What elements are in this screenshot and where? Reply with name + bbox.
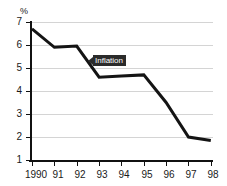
y-axis-unit-label: %	[20, 6, 28, 16]
inflation-annotation-callout: Inflation	[88, 55, 126, 66]
inflation-line-chart: % 7 6 5 4 3 2 1 1990 91 92 93 94 95 96 9…	[0, 0, 227, 186]
y-axis	[26, 21, 31, 161]
inflation-series-line	[32, 29, 211, 140]
x-tick-label-92: 92	[74, 169, 85, 180]
x-axis	[29, 161, 213, 167]
x-tick-label-96: 96	[163, 169, 174, 180]
x-tick-label-98: 98	[207, 169, 218, 180]
y-tick-label-4: 4	[8, 86, 22, 96]
x-tick-label-91: 91	[52, 169, 63, 180]
x-tick-label-94: 94	[118, 169, 129, 180]
inflation-annotation-label: Inflation	[93, 55, 126, 66]
y-tick-label-1: 1	[8, 155, 22, 165]
y-tick-label-6: 6	[8, 40, 22, 50]
x-tick-label-1990: 1990	[25, 169, 47, 180]
gridlines	[30, 22, 213, 137]
x-tick-label-97: 97	[185, 169, 196, 180]
y-tick-label-7: 7	[8, 17, 22, 27]
y-tick-label-2: 2	[8, 132, 22, 142]
y-tick-label-3: 3	[8, 109, 22, 119]
x-tick-label-95: 95	[141, 169, 152, 180]
chart-canvas	[0, 0, 227, 186]
y-tick-label-5: 5	[8, 63, 22, 73]
x-tick-label-93: 93	[96, 169, 107, 180]
